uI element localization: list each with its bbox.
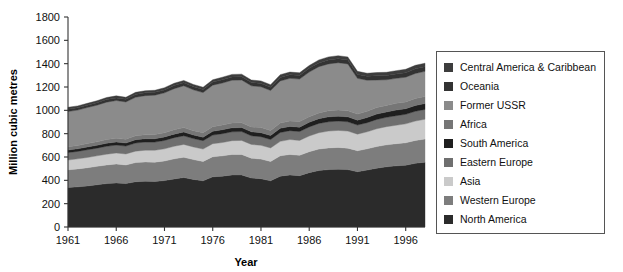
chart-legend: Central America & CaribbeanOceaniaFormer… [436, 51, 605, 234]
y-tick-label: 1600 [36, 34, 60, 46]
legend-item: Eastern Europe [444, 153, 597, 172]
legend-item: Central America & Caribbean [444, 58, 597, 77]
legend-item: Oceania [444, 77, 597, 96]
legend-item-label: South America [460, 138, 528, 149]
legend-item-label: Eastern Europe [460, 157, 533, 168]
legend-item: Western Europe [444, 191, 597, 210]
legend-item-label: Asia [460, 176, 480, 187]
legend-item-label: Oceania [460, 81, 499, 92]
legend-item-label: Africa [460, 119, 487, 130]
legend-swatch-icon [444, 101, 453, 110]
legend-swatch-icon [444, 177, 453, 186]
y-tick-label: 1800 [36, 11, 60, 23]
y-axis-ticks: 020040060080010001200140016001800 [36, 11, 68, 233]
x-tick-label: 1991 [345, 234, 369, 246]
legend-item-label: Western Europe [460, 195, 536, 206]
y-tick-label: 400 [42, 174, 60, 186]
legend-item-label: Central America & Caribbean [460, 62, 596, 73]
y-tick-label: 800 [42, 128, 60, 140]
x-tick-label: 1961 [56, 234, 80, 246]
y-tick-label: 1400 [36, 58, 60, 70]
y-tick-label: 0 [54, 221, 60, 233]
legend-item: South America [444, 134, 597, 153]
y-tick-label: 200 [42, 198, 60, 210]
legend-swatch-icon [444, 215, 453, 224]
y-tick-label: 600 [42, 151, 60, 163]
legend-item: Former USSR [444, 96, 597, 115]
x-tick-label: 1996 [393, 234, 417, 246]
x-tick-label: 1971 [152, 234, 176, 246]
legend-item: North America [444, 210, 597, 229]
chart-areas [68, 56, 425, 227]
x-tick-label: 1976 [200, 234, 224, 246]
x-tick-label: 1986 [297, 234, 321, 246]
legend-swatch-icon [444, 63, 453, 72]
chart-figure: 020040060080010001200140016001800 196119… [0, 0, 623, 272]
y-tick-label: 1000 [36, 104, 60, 116]
legend-item: Africa [444, 115, 597, 134]
legend-swatch-icon [444, 82, 453, 91]
y-axis-title: Million cubic metres [7, 69, 19, 175]
legend-swatch-icon [444, 139, 453, 148]
x-tick-label: 1966 [104, 234, 128, 246]
x-axis-ticks: 19611966197119761981198619911996 [56, 227, 418, 246]
y-tick-label: 1200 [36, 81, 60, 93]
legend-item: Asia [444, 172, 597, 191]
x-tick-label: 1981 [249, 234, 273, 246]
legend-item-label: Former USSR [460, 100, 526, 111]
legend-swatch-icon [444, 158, 453, 167]
legend-swatch-icon [444, 196, 453, 205]
legend-swatch-icon [444, 120, 453, 129]
x-axis-title: Year [234, 256, 258, 268]
legend-item-label: North America [460, 214, 527, 225]
